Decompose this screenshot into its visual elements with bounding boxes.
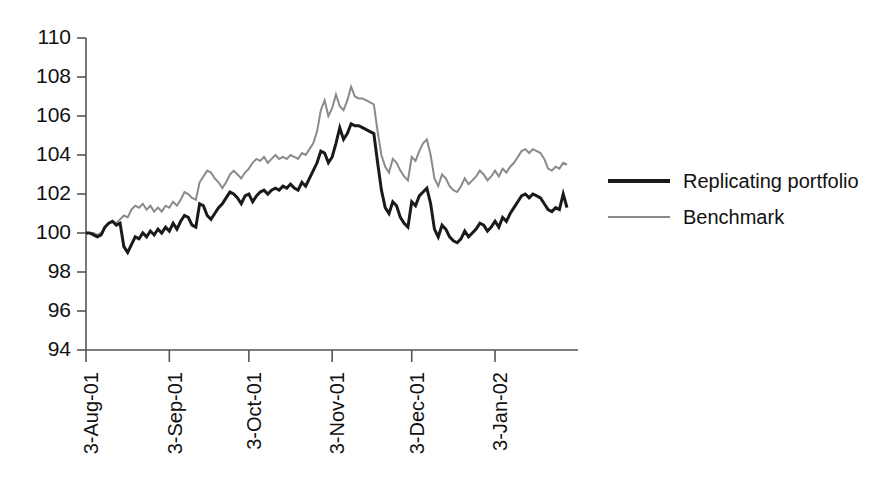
y-axis-tick-label: 98	[48, 259, 71, 282]
x-axis-tick-label: 3-Dec-01	[406, 372, 428, 454]
y-axis-tick-label: 102	[36, 181, 71, 204]
x-axis-tick-label: 3-Sep-01	[164, 372, 186, 454]
legend-swatch-replicating-portfolio	[608, 179, 670, 183]
x-axis-tick-label: 3-Aug-01	[80, 372, 102, 454]
x-axis-tick-label: 3-Oct-01	[243, 372, 265, 450]
legend-swatch-benchmark	[608, 216, 670, 218]
y-axis-tick-label: 110	[38, 25, 71, 48]
y-axis-tick-label: 94	[48, 337, 72, 360]
series-line-replicating-portfolio	[86, 124, 567, 253]
y-axis-tick-label: 108	[36, 64, 71, 87]
legend-label-benchmark: Benchmark	[683, 206, 784, 229]
line-chart: 9496981001021041061081103-Aug-013-Sep-01…	[0, 0, 889, 479]
y-axis-tick-label: 106	[36, 103, 71, 126]
x-axis-tick-label: 3-Jan-02	[489, 372, 511, 451]
y-axis-tick-label: 100	[36, 220, 71, 243]
x-axis-tick-label: 3-Nov-01	[326, 372, 348, 454]
plot-area: 9496981001021041061081103-Aug-013-Sep-01…	[0, 0, 889, 479]
legend-item-benchmark: Benchmark	[608, 199, 878, 235]
legend-item-replicating-portfolio: Replicating portfolio	[608, 163, 878, 199]
legend-label-replicating-portfolio: Replicating portfolio	[683, 170, 859, 193]
chart-legend: Replicating portfolio Benchmark	[608, 163, 878, 235]
y-axis-tick-label: 96	[48, 298, 71, 321]
y-axis-tick-label: 104	[36, 142, 71, 165]
